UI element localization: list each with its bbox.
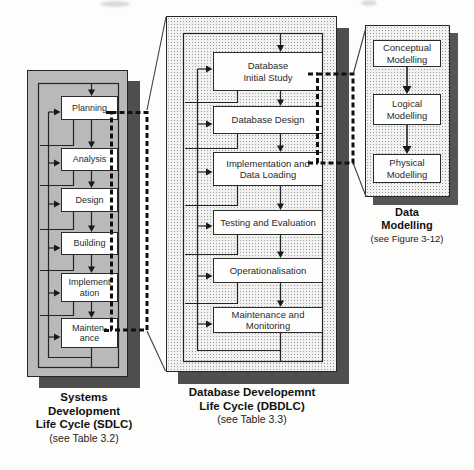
dm-node-conceptual-modelling: Conceptual Modelling <box>373 40 441 67</box>
dm-caption-note: (see Figure 3-12) <box>357 232 457 245</box>
sdlc-node-implementation: Implement ation <box>61 273 118 302</box>
sdlc-node-building: Building <box>61 232 118 255</box>
dm-node-physical-modelling: Physical Modelling <box>373 154 441 183</box>
dbdlc-node-testing-evaluation: Testing and Evaluation <box>213 210 323 235</box>
sdlc-node-planning: Planning <box>61 96 118 120</box>
dbdlc-node-database-initial-study: Database Initial Study <box>213 52 323 91</box>
scan-artifact <box>100 1 130 7</box>
sdlc-node-analysis: Analysis <box>61 148 118 171</box>
life-cycle-diagram: Planning Analysis Design Building Implem… <box>0 0 474 470</box>
dbdlc-node-operationalisation: Operationalisation <box>213 258 323 283</box>
sdlc-caption: Systems Development Life Cycle (SDLC) (s… <box>14 391 154 445</box>
sdlc-node-design: Design <box>61 188 118 212</box>
scan-artifact <box>361 0 377 6</box>
dbdlc-caption-note: (see Table 3.3) <box>172 413 332 426</box>
dbdlc-caption: Database Developemnt Life Cycle (DBDLC) … <box>172 386 332 426</box>
sdlc-caption-note: (see Table 3.2) <box>14 432 154 445</box>
dm-node-logical-modelling: Logical Modelling <box>373 94 441 125</box>
data-modelling-caption: Data Modelling (see Figure 3-12) <box>357 206 457 245</box>
dbdlc-node-database-design: Database Design <box>213 106 323 134</box>
dbdlc-node-implementation-data-loading: Implementation and Data Loading <box>213 152 323 186</box>
sdlc-node-maintenance: Mainten- ance <box>61 318 118 348</box>
dbdlc-node-maintenance-monitoring: Maintenance and Monitoring <box>213 307 323 333</box>
